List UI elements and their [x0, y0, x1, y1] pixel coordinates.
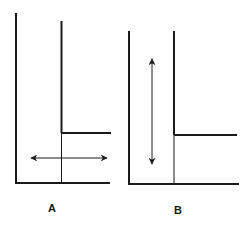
panel-b-label: B	[174, 205, 182, 216]
panel-a	[15, 13, 111, 183]
diagram-canvas	[0, 0, 252, 227]
panel-a-label: A	[48, 203, 56, 214]
panel-b	[128, 31, 239, 184]
